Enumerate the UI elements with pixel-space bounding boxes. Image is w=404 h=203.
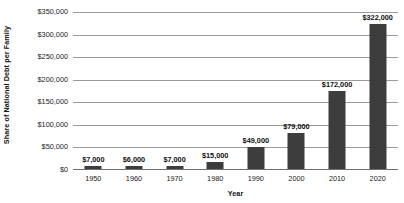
bar-1950[interactable] (85, 166, 102, 169)
bar-series: $7,000$6,000$7,000$15,000$49,000$79,000$… (73, 12, 398, 170)
y-axis-tick-labels: $350,000$300,000$250,000$200,000$150,000… (10, 0, 68, 203)
bar-group: $79,000 (276, 12, 317, 170)
x-axis-tick-label: 1990 (248, 174, 264, 184)
bar-1990[interactable] (247, 147, 264, 169)
bar-value-label: $7,000 (163, 156, 185, 164)
y-axis-tick-label: $150,000 (10, 98, 68, 106)
y-axis-tick-label: $350,000 (10, 8, 68, 16)
bar-group: $7,000 (73, 12, 114, 170)
x-axis-title: Year (73, 189, 398, 198)
bar-group: $6,000 (114, 12, 155, 170)
bar-group: $7,000 (154, 12, 195, 170)
y-axis-tick-label: $300,000 (10, 31, 68, 39)
y-axis-tick-label: $50,000 (10, 143, 68, 151)
x-axis-tick-label: 1980 (207, 174, 223, 184)
x-axis-tick-label: 1960 (126, 174, 142, 184)
bar-value-label: $6,000 (123, 156, 145, 164)
bar-1970[interactable] (166, 166, 183, 169)
bar-chart: Share of National Debt per Family $350,0… (0, 0, 404, 203)
y-axis-tick-label: $0 (10, 166, 68, 174)
x-axis-tick-label: 2000 (288, 174, 304, 184)
x-axis-tick-label: 2010 (329, 174, 345, 184)
x-axis-tick-label: 1950 (85, 174, 101, 184)
x-axis-tick-label: 2020 (370, 174, 386, 184)
bar-value-label: $7,000 (82, 156, 104, 164)
y-axis-tick-label: $250,000 (10, 53, 68, 61)
bar-1980[interactable] (207, 162, 224, 169)
y-axis-tick-label: $200,000 (10, 76, 68, 84)
bar-value-label: $79,000 (283, 123, 309, 131)
bar-group: $172,000 (317, 12, 358, 170)
x-axis-tick-labels: 19501960197019801990200020102020 (73, 174, 398, 186)
x-axis-tick-label: 1970 (166, 174, 182, 184)
bar-value-label: $15,000 (202, 152, 228, 160)
bar-2010[interactable] (329, 91, 346, 169)
bar-value-label: $49,000 (243, 137, 269, 145)
bar-2020[interactable] (369, 24, 386, 169)
bar-value-label: $322,000 (362, 14, 392, 22)
bar-group: $49,000 (236, 12, 277, 170)
bar-1960[interactable] (125, 166, 142, 169)
y-axis-tick-label: $100,000 (10, 121, 68, 129)
bar-2000[interactable] (288, 133, 305, 169)
bar-group: $322,000 (357, 12, 398, 170)
plot-area: $7,000$6,000$7,000$15,000$49,000$79,000$… (73, 12, 398, 170)
bar-group: $15,000 (195, 12, 236, 170)
bar-value-label: $172,000 (322, 81, 352, 89)
